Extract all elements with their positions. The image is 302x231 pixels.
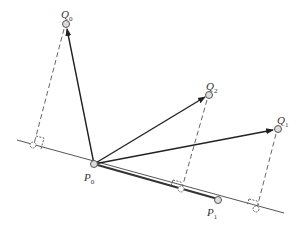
projection-q0 <box>34 29 64 144</box>
point-p1 <box>215 197 222 204</box>
label-q1: Q1 <box>277 115 288 129</box>
projection-q1 <box>257 134 276 208</box>
foot-q1 <box>253 206 259 212</box>
foot-q0 <box>30 142 36 148</box>
label-p1: P1 <box>207 207 217 221</box>
segment-p0-p1 <box>94 164 218 199</box>
diagram-canvas <box>0 0 302 231</box>
base-line <box>17 140 284 213</box>
foot-q2 <box>178 186 184 192</box>
projection-q2 <box>182 100 207 188</box>
label-q0: Q0 <box>61 9 72 23</box>
projection-diagram: Q0 Q2 Q1 P0 P1 <box>0 0 302 231</box>
arrow-p0-q0 <box>67 29 94 164</box>
point-p0 <box>91 161 98 168</box>
label-q2: Q2 <box>206 81 217 95</box>
label-p0: P0 <box>84 172 94 186</box>
